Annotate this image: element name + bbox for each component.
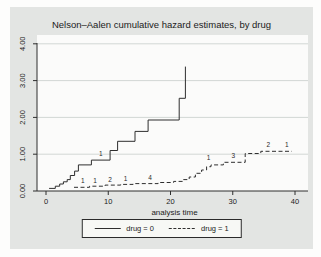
plot-area [37,35,308,191]
y-tick-label-2.00: 2.00 [18,110,27,125]
x-axis-title: analysis time [151,208,198,217]
censor-count-annotation-5: 4 [148,174,152,181]
graph-region: Nelson–Aalen cumulative hazard estimates… [10,7,313,249]
y-tick-label-0.00: 0.00 [18,184,27,199]
censor-count-annotation-8: 2 [266,141,270,148]
legend-label-drug-1: drug = 1 [201,224,229,233]
censor-count-annotation-0: 1 [99,150,103,157]
y-tick-label-4.00: 4.00 [18,36,27,51]
x-tick-label-0: 0 [44,197,48,206]
censor-count-annotation-3: 2 [108,176,112,183]
screenshot-page: Nelson–Aalen cumulative hazard estimates… [0,0,321,257]
x-tick-label-30: 30 [229,197,237,206]
censor-count-annotation-9: 1 [285,141,289,148]
y-tick-label-1.00: 1.00 [18,147,27,162]
legend: drug = 0 drug = 1 [81,219,241,238]
x-tick-label-40: 40 [291,197,299,206]
solid-line-sample [94,228,120,229]
legend-entry-drug-1: drug = 1 [169,224,229,233]
y-tick-label-3.00: 3.00 [18,73,27,88]
x-tick-label-20: 20 [166,197,174,206]
censor-count-annotation-2: 1 [93,177,97,184]
x-tick-label-10: 10 [104,197,112,206]
censor-count-annotation-4: 1 [124,175,128,182]
censor-count-annotation-1: 1 [81,177,85,184]
censor-count-annotation-6: 1 [207,154,211,161]
legend-entry-drug-0: drug = 0 [94,224,154,233]
censor-count-annotation-7: 3 [232,152,236,159]
legend-label-drug-0: drug = 0 [126,224,154,233]
dashed-line-sample [169,228,195,229]
hazard-plot: 0.001.002.003.004.00010203040analysis ti… [10,7,313,249]
